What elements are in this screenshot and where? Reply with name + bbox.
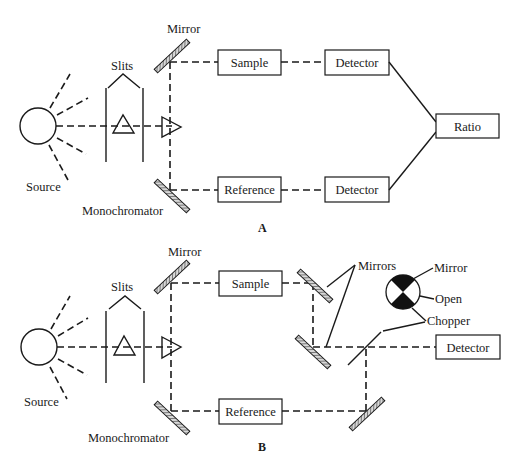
mirror-top xyxy=(154,39,190,73)
detector-label-b: Detector xyxy=(446,341,490,355)
spectrophotometer-diagram: Source Slits Mirror Monochromator Sample… xyxy=(0,0,524,473)
source-label-b: Source xyxy=(24,395,59,409)
detector-bottom-label: Detector xyxy=(335,183,379,197)
mirrors-label: Mirrors xyxy=(358,259,396,273)
sample-label: Sample xyxy=(231,56,269,70)
mirror-bottom-b xyxy=(154,401,190,435)
slits-b xyxy=(106,296,144,383)
caption-b: B xyxy=(258,440,266,454)
prism-icon xyxy=(113,115,134,133)
reference-label-b: Reference xyxy=(225,405,276,419)
source-lamp-b xyxy=(21,296,88,399)
chopper-label: Chopper xyxy=(427,314,471,328)
caption-a: A xyxy=(258,221,267,235)
panel-b: Source Slits Mirror Monochromator Sample… xyxy=(21,245,500,454)
slits-label-b: Slits xyxy=(111,280,133,294)
chopper-mirror-label: Mirror xyxy=(434,261,468,275)
monochromator-label: Monochromator xyxy=(82,204,164,218)
reference-label: Reference xyxy=(224,183,275,197)
mirror-label-b: Mirror xyxy=(168,245,202,259)
detector-top-label: Detector xyxy=(335,56,379,70)
source-label: Source xyxy=(26,180,61,194)
ratio-label: Ratio xyxy=(454,120,481,134)
slits-label: Slits xyxy=(111,59,133,73)
monochromator-label-b: Monochromator xyxy=(88,431,170,445)
source-lamp xyxy=(20,74,88,180)
mirror-top-b xyxy=(154,260,190,294)
reference-mirror xyxy=(349,397,385,431)
chopper-disk-icon xyxy=(386,275,420,309)
sample-label-b: Sample xyxy=(232,277,270,291)
chopper-open-label: Open xyxy=(435,292,463,306)
prism-icon-b xyxy=(114,336,135,355)
monochromator-exit-icon xyxy=(162,117,181,137)
panel-a: Source Slits Mirror Monochromator Sample… xyxy=(20,22,499,235)
chopper-blade xyxy=(348,332,381,365)
mirror-label: Mirror xyxy=(167,22,201,36)
